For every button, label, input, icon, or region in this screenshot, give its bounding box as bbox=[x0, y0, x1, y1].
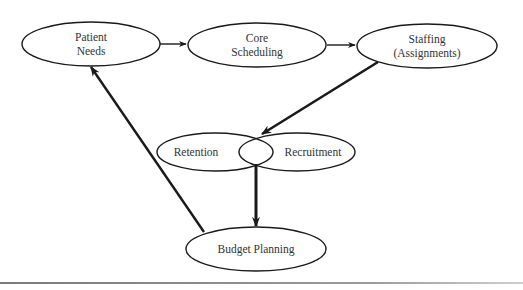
node-label: Patient bbox=[75, 31, 108, 43]
node-label: Budget Planning bbox=[218, 243, 295, 256]
node-recruitment: Recruitment bbox=[239, 133, 355, 171]
node-label: Recruitment bbox=[285, 146, 343, 158]
node-label: (Assignments) bbox=[393, 47, 460, 60]
node-label: Needs bbox=[77, 45, 106, 57]
node-staffing: Staffing (Assignments) bbox=[357, 24, 497, 68]
node-core-scheduling: Core Scheduling bbox=[188, 23, 326, 67]
node-budget-planning: Budget Planning bbox=[186, 227, 326, 271]
node-patient-needs: Patient Needs bbox=[22, 22, 160, 66]
node-label: Staffing bbox=[409, 33, 446, 46]
node-label: Scheduling bbox=[231, 46, 283, 59]
arrow-staffing-to-retention-recruitment bbox=[262, 62, 378, 134]
bottom-divider bbox=[0, 282, 523, 284]
flow-diagram: Patient Needs Core Scheduling Staffing (… bbox=[0, 0, 523, 290]
node-label: Core bbox=[246, 32, 268, 44]
node-label: Retention bbox=[174, 146, 219, 158]
